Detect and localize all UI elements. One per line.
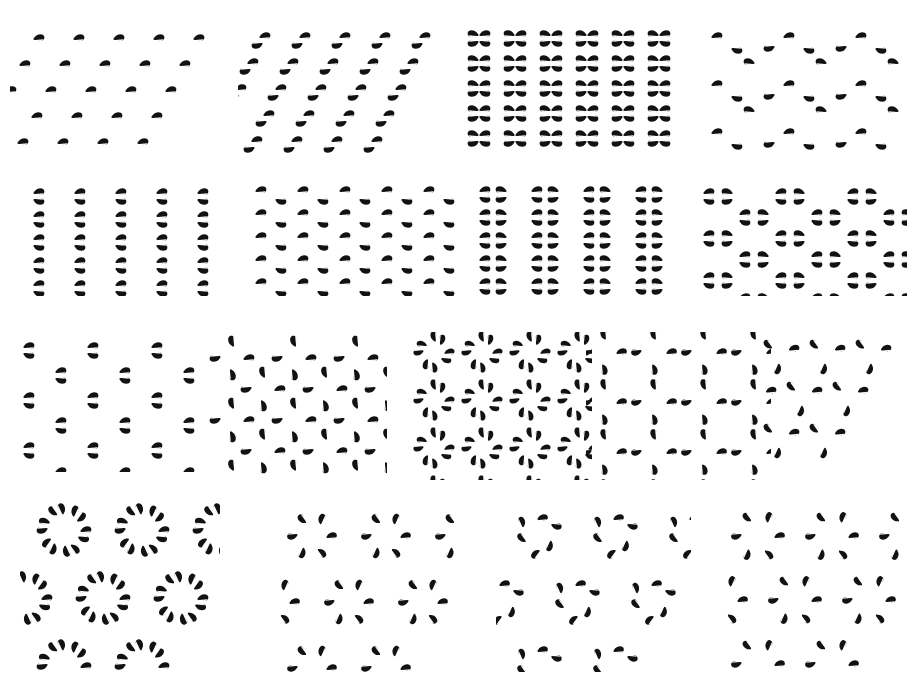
comma-motif (750, 379, 756, 389)
comma-motif (360, 68, 371, 75)
comma-motif (413, 349, 423, 355)
comma-motif (291, 431, 298, 442)
comma-motif (836, 93, 847, 100)
comma-motif (722, 240, 733, 247)
comma-motif (339, 278, 350, 285)
comma-motif (117, 604, 128, 611)
comma-motif (251, 136, 262, 143)
comma-motif (183, 377, 194, 384)
comma-motif (689, 514, 691, 520)
comma-motif (333, 579, 344, 591)
comma-motif (681, 399, 691, 405)
comma-motif (731, 47, 742, 54)
pattern-cell-pmm (464, 14, 679, 154)
comma-motif (515, 40, 526, 47)
comma-motif (504, 65, 515, 72)
comma-motif (240, 68, 251, 75)
comma-motif (659, 80, 670, 87)
comma-motif (193, 579, 204, 592)
comma-motif (711, 128, 722, 135)
comma-motif (722, 230, 733, 237)
comma-motif (297, 209, 308, 216)
comma-motif (623, 130, 634, 137)
comma-motif (537, 405, 547, 411)
comma-motif (600, 288, 611, 295)
pattern-cell-p6 (272, 502, 462, 672)
pattern-canvas (412, 332, 592, 480)
comma-motif (700, 379, 706, 389)
comma-motif (87, 402, 98, 409)
comma-motif (883, 261, 894, 268)
comma-motif (666, 448, 676, 454)
comma-motif (479, 30, 490, 37)
comma-motif (535, 431, 541, 441)
comma-motif (69, 640, 80, 653)
comma-motif (487, 431, 493, 441)
pattern-cell-pm (14, 176, 229, 296)
comma-motif (74, 257, 85, 264)
comma-motif (487, 335, 493, 345)
comma-motif (423, 209, 434, 216)
comma-motif (586, 349, 592, 355)
comma-motif (854, 339, 865, 351)
comma-motif (666, 398, 676, 404)
comma-motif (669, 516, 680, 528)
comma-motif (417, 389, 427, 395)
pattern-canvas (760, 332, 910, 482)
comma-motif (289, 598, 299, 604)
comma-motif (587, 130, 598, 137)
comma-motif (531, 219, 542, 226)
comma-motif (726, 575, 737, 587)
comma-motif (496, 186, 507, 193)
comma-motif (119, 417, 130, 424)
comma-motif (587, 105, 598, 112)
comma-motif (764, 548, 775, 560)
comma-motif (468, 140, 479, 147)
comma-motif (353, 579, 364, 591)
comma-motif (439, 335, 445, 345)
comma-motif (441, 453, 451, 459)
comma-motif (504, 90, 515, 97)
comma-motif (179, 60, 190, 67)
comma-motif (531, 186, 542, 193)
comma-motif (361, 533, 371, 539)
comma-motif (371, 547, 382, 559)
comma-motif (830, 209, 841, 216)
comma-motif (195, 604, 206, 611)
comma-motif (548, 186, 559, 193)
pattern-canvas (692, 176, 907, 296)
comma-motif (682, 548, 691, 560)
comma-motif (847, 282, 858, 289)
comma-motif (321, 367, 328, 378)
comma-motif (551, 523, 561, 529)
comma-motif (303, 448, 314, 455)
comma-motif (363, 598, 373, 604)
comma-motif (739, 251, 750, 258)
comma-motif (540, 90, 551, 97)
comma-motif (478, 379, 484, 389)
comma-motif (479, 219, 490, 226)
comma-motif (154, 595, 165, 602)
comma-motif (305, 354, 316, 361)
comma-motif (398, 599, 408, 605)
comma-motif (621, 540, 632, 552)
comma-motif (479, 255, 490, 262)
comma-motif (326, 532, 336, 538)
comma-motif (526, 332, 532, 342)
comma-motif (751, 414, 757, 424)
comma-motif (866, 230, 877, 237)
pattern-canvas (14, 176, 229, 296)
comma-motif (875, 612, 886, 624)
comma-motif (659, 55, 670, 62)
comma-motif (388, 94, 399, 101)
comma-motif (623, 55, 634, 62)
comma-motif (737, 596, 747, 602)
comma-motif (612, 140, 623, 147)
comma-motif (583, 196, 594, 203)
comma-motif (423, 255, 434, 262)
comma-motif (567, 455, 573, 465)
comma-motif (487, 479, 493, 480)
comma-motif (401, 244, 412, 251)
comma-motif (468, 105, 479, 112)
comma-motif (327, 58, 338, 65)
